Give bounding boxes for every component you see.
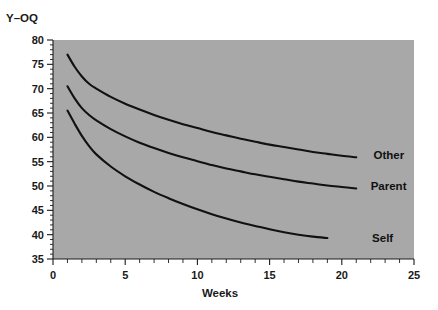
x-tick-label: 0 bbox=[50, 269, 56, 281]
y-tick-label: 75 bbox=[32, 58, 44, 70]
y-tick-label: 35 bbox=[32, 253, 44, 265]
x-tick-label: 25 bbox=[408, 269, 420, 281]
x-axis-title: Weeks bbox=[202, 287, 238, 299]
x-tick-label: 5 bbox=[122, 269, 128, 281]
plot-area-background bbox=[53, 40, 414, 259]
line-chart: 35404550556065707580 0510152025 Y–OQ Wee… bbox=[0, 0, 438, 310]
y-tick-label: 55 bbox=[32, 156, 44, 168]
y-axis-title: Y–OQ bbox=[6, 12, 38, 24]
x-tick-label: 15 bbox=[263, 269, 275, 281]
series-label-other: Other bbox=[374, 149, 405, 161]
y-tick-label: 60 bbox=[32, 131, 44, 143]
y-tick-label: 40 bbox=[32, 229, 44, 241]
y-tick-label: 50 bbox=[32, 180, 44, 192]
y-tick-label: 45 bbox=[32, 204, 44, 216]
y-tick-label: 80 bbox=[32, 34, 44, 46]
x-tick-label: 10 bbox=[191, 269, 203, 281]
y-tick-label: 70 bbox=[32, 83, 44, 95]
x-tick-label: 20 bbox=[336, 269, 348, 281]
series-label-self: Self bbox=[372, 232, 393, 244]
y-tick-label: 65 bbox=[32, 107, 44, 119]
series-label-parent: Parent bbox=[371, 180, 407, 192]
chart-page: 35404550556065707580 0510152025 Y–OQ Wee… bbox=[0, 0, 438, 310]
